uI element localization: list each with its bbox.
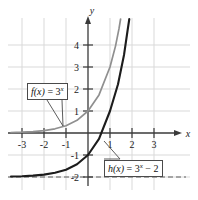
tick-label-y--2: -2 — [71, 172, 79, 183]
callout-h-equals: = 3 — [124, 163, 140, 174]
tick-label-x--1: -1 — [62, 139, 70, 150]
leader-line-f — [47, 100, 63, 126]
y-axis-arrowhead — [85, 16, 91, 24]
tick-label-y-4: 4 — [74, 40, 79, 51]
callout-h-arg: (x) — [113, 163, 124, 174]
tick-label-y--1: -1 — [71, 150, 79, 161]
tick-label-x--3: -3 — [18, 139, 26, 150]
tick-label-x--2: -2 — [40, 139, 48, 150]
x-axis-label: x — [185, 128, 191, 139]
tick-label-y-3: 3 — [74, 62, 79, 73]
callout-label-f-of-x: f(x) = 3x — [27, 83, 68, 100]
tick-label-y-1: 1 — [74, 106, 79, 117]
callout-f-exponent: x — [61, 85, 64, 93]
graph-figure: -3 -2 -1 1 2 3 4 3 2 1 -1 -2 x y f — [0, 0, 198, 200]
grid-lines — [8, 18, 190, 190]
callout-leader-lines — [47, 100, 120, 159]
callout-h-tail: − 2 — [143, 163, 159, 174]
tick-label-y-2: 2 — [74, 84, 79, 95]
callout-f-equals: = 3 — [45, 86, 61, 97]
tick-label-x-2: 2 — [130, 139, 135, 150]
y-axis-label: y — [89, 5, 95, 16]
tick-label-x-3: 3 — [152, 139, 157, 150]
callout-label-h-of-x: h(x) = 3x − 2 — [104, 160, 163, 177]
callout-f-arg: (x) — [34, 86, 45, 97]
x-axis-arrowhead — [174, 130, 182, 136]
